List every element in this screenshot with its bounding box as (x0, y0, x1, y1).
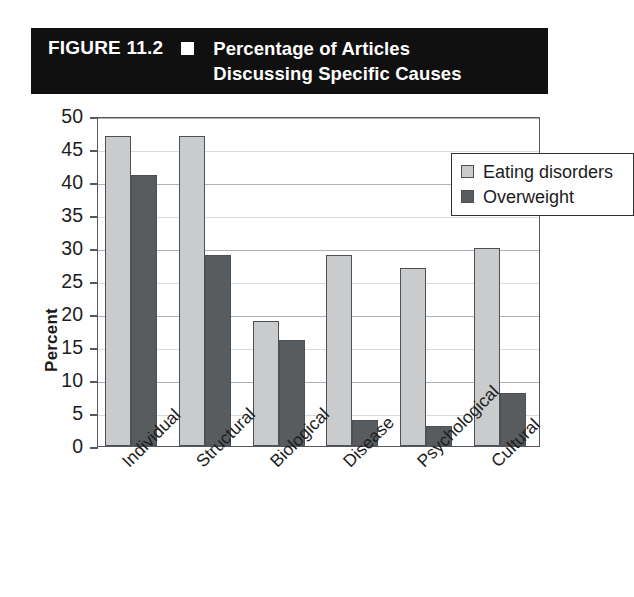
bar (253, 321, 279, 446)
gridline (98, 118, 539, 119)
chart-legend: Eating disorders Overweight (451, 153, 634, 216)
y-tick-label: 5 (37, 404, 83, 424)
bar (179, 136, 205, 446)
square-bullet-icon (181, 42, 194, 55)
legend-swatch-icon-eating-disorders (461, 165, 474, 178)
y-tick-label: 0 (37, 437, 83, 457)
y-tick-label: 20 (37, 305, 83, 325)
bar (105, 136, 131, 446)
legend-item-overweight: Overweight (452, 184, 633, 209)
y-tick-label: 45 (37, 140, 83, 160)
y-tick-label: 10 (37, 371, 83, 391)
figure-number-label: FIGURE 11.2 (48, 36, 163, 60)
y-tick-label: 30 (37, 239, 83, 259)
legend-label-overweight: Overweight (483, 188, 574, 206)
gridline (98, 283, 539, 284)
gridline (98, 349, 539, 350)
figure-title-banner: FIGURE 11.2 Percentage of Articles Discu… (31, 28, 548, 94)
bar (131, 175, 157, 446)
gridline (98, 217, 539, 218)
gridline (98, 151, 539, 152)
gridline (98, 316, 539, 317)
gridline (98, 382, 539, 383)
y-tick-mark (90, 447, 98, 449)
y-tick-label: 50 (37, 107, 83, 127)
y-tick-label: 40 (37, 173, 83, 193)
gridline (98, 250, 539, 251)
y-tick-label: 15 (37, 338, 83, 358)
legend-swatch-icon-overweight (461, 190, 474, 203)
legend-label-eating-disorders: Eating disorders (483, 163, 613, 181)
y-tick-label: 35 (37, 206, 83, 226)
bar (205, 255, 231, 446)
bar-chart: Percent 05101520253035404550 Eating diso… (0, 100, 573, 580)
bar (400, 268, 426, 446)
y-tick-label: 25 (37, 272, 83, 292)
legend-item-eating-disorders: Eating disorders (452, 159, 633, 184)
figure-caption: Percentage of Articles Discussing Specif… (213, 36, 461, 86)
